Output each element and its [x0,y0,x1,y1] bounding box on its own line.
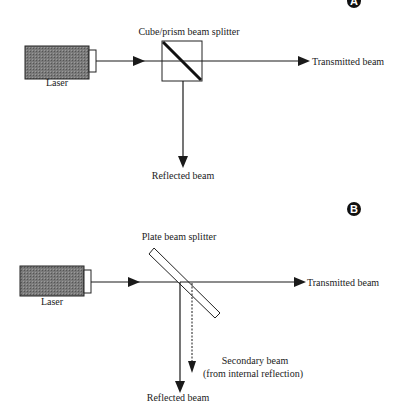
panel-b-badge: B [347,202,361,216]
transmitted-label-a: Transmitted beam [312,56,384,67]
transmitted-label-b: Transmitted beam [307,277,379,288]
transmitted-arrow-b-icon [294,277,306,287]
reflected-label-b: Reflected beam [147,392,210,403]
svg-text:B: B [350,203,358,215]
secondary-arrow-b-icon [188,361,196,373]
panel-b: B Laser Plate beam splitter Transmitted … [20,202,379,403]
secondary-label-line1: Secondary beam [222,355,289,366]
laser-a-label: Laser [46,77,69,88]
laser-a [25,46,96,79]
secondary-label-line2: (from internal reflection) [203,368,303,380]
reflected-arrow-a-icon [178,156,188,168]
cube-splitter-label: Cube/prism beam splitter [138,26,240,37]
laser-b [20,266,91,296]
laser-b-label: Laser [41,296,64,307]
svg-text:A: A [350,0,358,7]
panel-a-badge: A [347,0,361,8]
transmitted-arrow-a-icon [298,56,310,66]
plate-splitter [149,248,220,318]
panel-a: A Laser Cube/prism beam splitter Transmi… [25,0,384,181]
beam-splitter-diagram: A Laser Cube/prism beam splitter Transmi… [0,0,407,417]
incident-arrow-b-icon [128,277,140,287]
plate-splitter-label: Plate beam splitter [142,231,217,242]
incident-arrow-a-icon [133,56,145,66]
reflected-label-a: Reflected beam [152,170,215,181]
